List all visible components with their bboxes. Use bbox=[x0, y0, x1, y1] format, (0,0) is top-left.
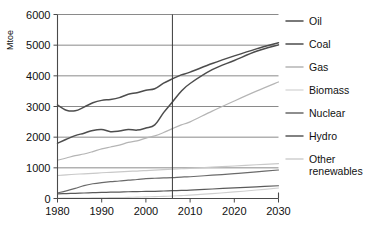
y-tick-label-5000: 5000 bbox=[26, 39, 50, 51]
legend-label-gas: Gas bbox=[309, 61, 328, 73]
y-tick-label-0: 0 bbox=[44, 193, 50, 205]
legend-label-other-renewables: renewables bbox=[309, 165, 363, 177]
legend-label-other-renewables: Other bbox=[309, 153, 336, 165]
y-axis-title: Mtoe bbox=[5, 30, 15, 50]
x-tick-label-2030: 2030 bbox=[266, 205, 290, 217]
y-tick-label-4000: 4000 bbox=[26, 70, 50, 82]
x-tick-label-2020: 2020 bbox=[222, 205, 246, 217]
y-axis-title-label: Mtoe bbox=[5, 30, 15, 50]
x-tick-label-1990: 1990 bbox=[89, 205, 113, 217]
y-tick-label-6000: 6000 bbox=[26, 9, 50, 21]
y-tick-label-1000: 1000 bbox=[26, 162, 50, 174]
y-tick-label-3000: 3000 bbox=[26, 101, 50, 113]
chart-figure: 198019902000201020202030 010002000300040… bbox=[0, 0, 368, 234]
x-tick-label-2010: 2010 bbox=[178, 205, 202, 217]
legend-label-coal: Coal bbox=[309, 38, 331, 50]
legend-label-biomass: Biomass bbox=[309, 84, 349, 96]
x-tick-label-2000: 2000 bbox=[134, 205, 158, 217]
y-tick-label-2000: 2000 bbox=[26, 131, 50, 143]
legend-label-nuclear: Nuclear bbox=[309, 107, 346, 119]
legend-label-hydro: Hydro bbox=[309, 130, 337, 142]
x-tick-label-1980: 1980 bbox=[45, 205, 69, 217]
legend-label-oil: Oil bbox=[309, 15, 322, 27]
line-chart: 198019902000201020202030 010002000300040… bbox=[0, 0, 368, 234]
